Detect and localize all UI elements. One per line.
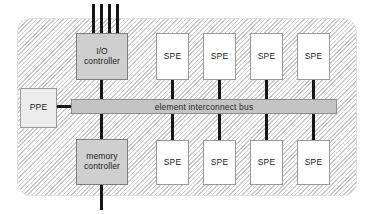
io-controller-block[interactable]: I/O controller: [76, 33, 128, 80]
memory-controller-label-line2: controller: [84, 162, 120, 172]
spe-bottom-1[interactable]: SPE: [156, 140, 189, 185]
spe-top-3-label: SPE: [258, 52, 275, 62]
ppe-block[interactable]: PPE: [20, 88, 57, 128]
wire-bus-to-spe-bottom-4: [312, 112, 315, 140]
spe-top-4[interactable]: SPE: [297, 33, 330, 80]
wire-bus-to-memory-controller: [100, 112, 103, 140]
spe-bottom-1-label: SPE: [164, 158, 181, 168]
spe-bottom-3[interactable]: SPE: [250, 140, 283, 185]
spe-top-3[interactable]: SPE: [250, 33, 283, 80]
wire-bus-to-spe-bottom-3: [265, 112, 268, 140]
element-interconnect-bus[interactable]: element interconnect bus: [71, 99, 337, 114]
wire-bus-to-spe-bottom-2: [218, 112, 221, 140]
spe-top-2-label: SPE: [211, 52, 228, 62]
spe-bottom-2-label: SPE: [211, 158, 228, 168]
wire-bus-to-spe-bottom-1: [171, 112, 174, 140]
spe-top-1-label: SPE: [164, 52, 181, 62]
memory-controller-block[interactable]: memory controller: [76, 139, 128, 185]
spe-bottom-3-label: SPE: [258, 158, 275, 168]
external-io-line-1: [92, 4, 95, 35]
external-io-line-2: [100, 4, 103, 35]
spe-top-4-label: SPE: [305, 52, 322, 62]
external-io-line-3: [108, 4, 111, 35]
io-controller-label-line2: controller: [84, 57, 120, 67]
spe-bottom-4[interactable]: SPE: [297, 140, 330, 185]
wire-memory-controller-external: [100, 184, 103, 210]
spe-bottom-2[interactable]: SPE: [203, 140, 236, 185]
element-interconnect-bus-label: element interconnect bus: [155, 102, 254, 112]
cell-processor-block-diagram: I/O controller memory controller PPE SPE…: [0, 0, 374, 214]
spe-top-2[interactable]: SPE: [203, 33, 236, 80]
spe-top-1[interactable]: SPE: [156, 33, 189, 80]
ppe-label: PPE: [30, 103, 47, 113]
external-io-line-4: [116, 4, 119, 35]
spe-bottom-4-label: SPE: [305, 158, 322, 168]
